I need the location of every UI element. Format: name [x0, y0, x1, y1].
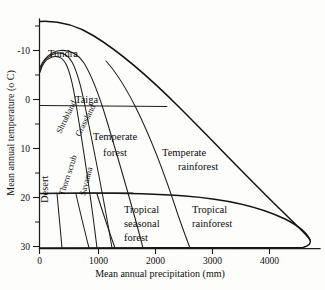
biome-label-tropical-seasonal-forest-line2: seasonal: [124, 218, 160, 229]
y-axis-title: Mean annual temperature (o C): [5, 70, 17, 196]
biome-label-temperate-forest-line2: forest: [103, 147, 127, 158]
biome-label-temperate-rainforest-line1: Temperate: [162, 147, 206, 158]
biome-chart-svg: -10 0 10 20 30 0 1000 2000 3000 4000 Mea…: [0, 0, 325, 290]
y-tick-label: 20: [21, 193, 31, 203]
x-tick-label: 2000: [146, 256, 165, 266]
biome-label-tropical-seasonal-forest-line3: forest: [124, 232, 148, 243]
divider-taiga-grassland: [40, 53, 112, 248]
x-tick-label: 0: [37, 256, 42, 266]
biome-label-temperate-forest-line1: Temperate: [93, 131, 137, 142]
divider-tundra-shrubland: [40, 57, 97, 248]
y-tick-label: -10: [17, 46, 30, 56]
divider-desert-thornscrub: [57, 194, 62, 249]
biome-label-tundra: Tundra: [48, 48, 78, 59]
biome-label-desert: Desert: [39, 176, 50, 203]
y-tick-label: 10: [21, 144, 31, 154]
y-tick-label: 30: [21, 242, 31, 252]
divider-savanna-tropseasonal: [97, 194, 115, 248]
biome-label-tropical-rainforest-line1: Tropical: [192, 204, 227, 215]
x-tick-label: 3000: [203, 256, 222, 266]
x-tick-labels: 0 1000 2000 3000 4000: [37, 256, 279, 266]
divider-boreal-temperate: [40, 106, 167, 107]
biome-label-savanna: Savanna: [77, 166, 94, 197]
biome-label-taiga: Taiga: [75, 94, 99, 105]
whittaker-biome-diagram: -10 0 10 20 30 0 1000 2000 3000 4000 Mea…: [0, 0, 325, 290]
biome-label-tropical-seasonal-forest-line1: Tropical: [124, 204, 159, 215]
biome-label-thorn-scrub: Thorn scrub: [56, 154, 78, 197]
biome-label-temperate-rainforest-line2: rainforest: [178, 161, 218, 172]
divider-thornscrub-savanna: [76, 194, 89, 248]
tropical-boundary-curve: [40, 193, 310, 240]
y-tick-label: 0: [25, 95, 30, 105]
x-tick-label: 4000: [260, 256, 279, 266]
x-axis-title: Mean annual precipitation (mm): [95, 268, 225, 280]
biome-label-tropical-rainforest-line2: rainforest: [192, 218, 232, 229]
y-tick-labels: -10 0 10 20 30: [17, 46, 30, 252]
x-tick-label: 1000: [89, 256, 108, 266]
